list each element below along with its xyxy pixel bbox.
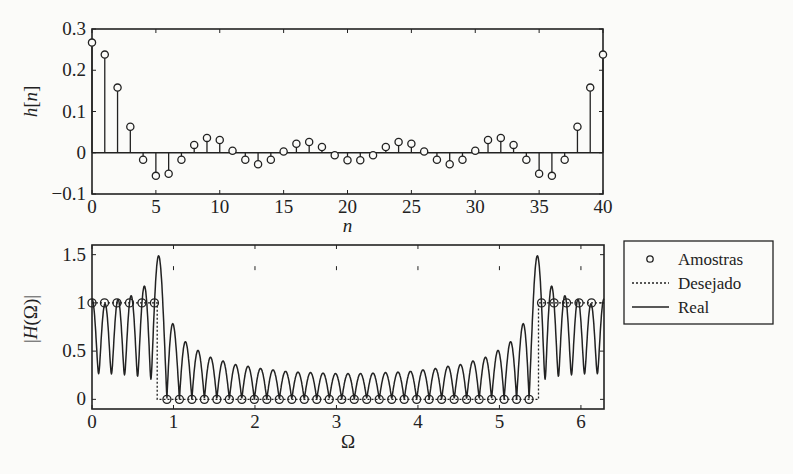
stem-marker bbox=[267, 156, 274, 163]
stem-marker bbox=[408, 140, 415, 147]
x-tick-label: 25 bbox=[402, 196, 421, 217]
impulse-response-axes: 0510152025303540−0.100.10.20.3nh[n] bbox=[20, 18, 613, 236]
x-tick-label: 5 bbox=[151, 196, 161, 217]
stem-marker bbox=[127, 123, 134, 130]
legend-label: Amostras bbox=[678, 250, 743, 269]
stem-marker bbox=[216, 136, 223, 143]
stem-marker bbox=[510, 141, 517, 148]
stem-marker bbox=[523, 156, 530, 163]
x-tick-label: 2 bbox=[250, 411, 260, 432]
x-tick-label: 0 bbox=[87, 196, 97, 217]
legend-label: Real bbox=[678, 298, 709, 317]
stem-marker bbox=[318, 143, 325, 150]
real-response-line bbox=[92, 256, 604, 399]
stem-marker bbox=[229, 147, 236, 154]
y-tick-label: 0.1 bbox=[62, 101, 86, 122]
x-tick-label: 6 bbox=[576, 411, 586, 432]
x-tick-label: 20 bbox=[338, 196, 357, 217]
bottom-y-axis-label: |H(Ω)| bbox=[20, 295, 42, 343]
stem-marker bbox=[178, 156, 185, 163]
stem-marker bbox=[254, 161, 261, 168]
stem-marker bbox=[191, 141, 198, 148]
stem-marker bbox=[280, 148, 287, 155]
stem-marker bbox=[446, 161, 453, 168]
y-tick-label: 0.5 bbox=[62, 340, 86, 361]
stem-marker bbox=[587, 84, 594, 91]
stem-marker bbox=[101, 51, 108, 58]
stem-marker bbox=[88, 39, 95, 46]
stem-marker bbox=[599, 51, 606, 58]
top-x-axis-label: n bbox=[343, 215, 353, 236]
x-tick-label: 3 bbox=[332, 411, 342, 432]
stem-marker bbox=[395, 138, 402, 145]
legend-label: Desejado bbox=[678, 274, 741, 293]
stem-marker bbox=[203, 134, 210, 141]
y-tick-label: −0.1 bbox=[52, 183, 86, 204]
figure: 0510152025303540−0.100.10.20.3nh[n] 0123… bbox=[0, 0, 793, 474]
y-tick-label: 0.2 bbox=[62, 59, 86, 80]
bottom-axes-frame bbox=[92, 245, 604, 409]
y-tick-label: 1 bbox=[77, 292, 87, 313]
stem-marker bbox=[152, 172, 159, 179]
legend: AmostrasDesejadoReal bbox=[624, 241, 773, 324]
stem-marker bbox=[574, 123, 581, 130]
stem-marker bbox=[433, 156, 440, 163]
y-tick-label: 1.5 bbox=[62, 244, 86, 265]
stem-marker bbox=[140, 156, 147, 163]
stem-marker bbox=[382, 143, 389, 150]
stem-marker bbox=[459, 156, 466, 163]
x-tick-label: 4 bbox=[413, 411, 423, 432]
stem-marker bbox=[242, 156, 249, 163]
x-tick-label: 40 bbox=[594, 196, 613, 217]
stem-marker bbox=[472, 147, 479, 154]
x-tick-label: 35 bbox=[530, 196, 549, 217]
stem-marker bbox=[306, 138, 313, 145]
stem-marker bbox=[369, 152, 376, 159]
x-tick-label: 10 bbox=[210, 196, 229, 217]
x-tick-label: 5 bbox=[495, 411, 505, 432]
y-tick-label: 0 bbox=[77, 388, 87, 409]
stem-marker bbox=[484, 136, 491, 143]
stem-marker bbox=[536, 170, 543, 177]
x-tick-label: 15 bbox=[274, 196, 293, 217]
stem-marker bbox=[331, 152, 338, 159]
bottom-x-axis-label: Ω bbox=[341, 431, 355, 452]
frequency-response-axes: 012345600.511.5Ω|H(Ω)| bbox=[20, 244, 604, 452]
stem-marker bbox=[293, 140, 300, 147]
stem-marker bbox=[357, 157, 364, 164]
stem-marker bbox=[421, 148, 428, 155]
stem-marker bbox=[561, 156, 568, 163]
x-tick-label: 1 bbox=[169, 411, 179, 432]
stem-marker bbox=[344, 157, 351, 164]
x-tick-label: 30 bbox=[466, 196, 485, 217]
y-tick-label: 0.3 bbox=[62, 18, 86, 39]
stem-marker bbox=[114, 84, 121, 91]
top-y-axis-label: h[n] bbox=[20, 86, 41, 118]
stem-marker bbox=[165, 170, 172, 177]
stem-marker bbox=[548, 172, 555, 179]
stem-marker bbox=[497, 134, 504, 141]
x-tick-label: 0 bbox=[87, 411, 97, 432]
y-tick-label: 0 bbox=[77, 142, 87, 163]
